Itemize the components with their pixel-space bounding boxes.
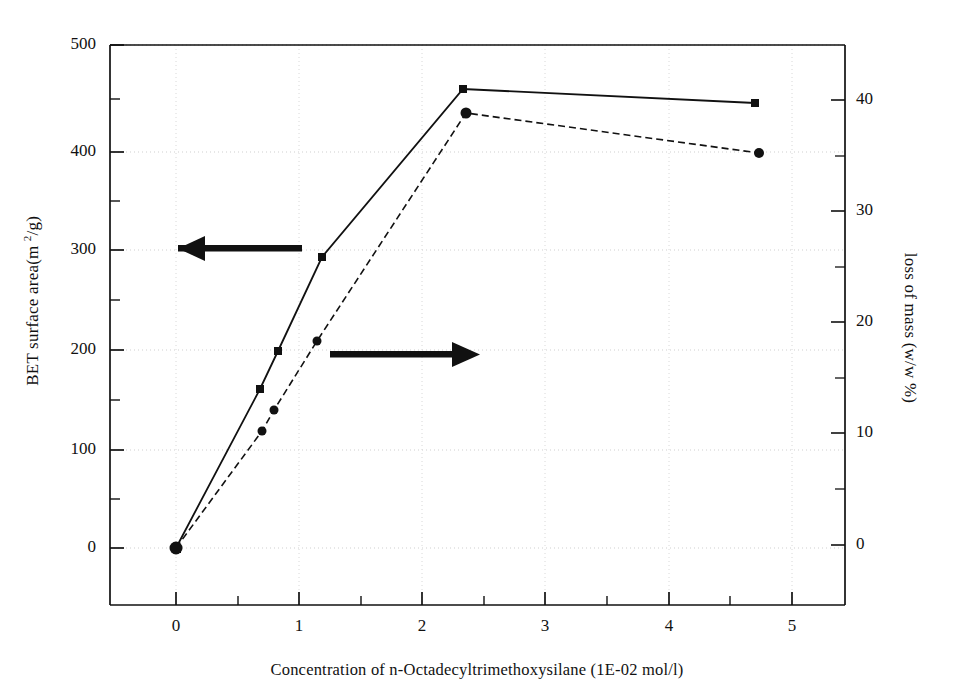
gridlines-vertical [176,45,792,605]
series-loss-line [176,113,759,548]
y-axis-title-left: BET surface area(m 2/g) [21,181,43,421]
left-axis-arrow-icon [178,236,302,261]
ytick-label-left: 100 [36,439,96,459]
data-point-marker [461,108,472,119]
data-point-marker [318,253,326,261]
ytick-label-left: 300 [36,239,96,259]
chart-plot-area [0,0,954,700]
right-axis-arrow-icon [330,342,480,367]
series-bet-surface-area [172,85,759,553]
x-axis-title: Concentration of n-Octadecyltrimethoxysi… [177,660,777,680]
ytick-label-left: 500 [36,34,96,54]
left-minor-ticks [110,99,120,499]
data-point-marker [751,99,759,107]
xtick-label: 1 [279,616,319,636]
y-axis-title-right: loss of mass (w/w %) [900,208,920,448]
data-point-marker [274,347,282,355]
chart-figure: 500 400 300 200 100 0 40 30 20 10 0 0 1 … [0,0,954,700]
xtick-label: 2 [402,616,442,636]
xtick-label: 0 [156,616,196,636]
data-point-marker [313,337,322,346]
left-major-ticks [110,45,124,548]
xtick-label: 5 [772,616,812,636]
ytick-label-right: 0 [856,534,916,554]
right-major-ticks [831,100,845,545]
ytick-label-left: 200 [36,339,96,359]
bottom-minor-ticks [238,596,730,605]
data-point-marker [256,385,264,393]
ytick-label-left: 400 [36,141,96,161]
series-bet-line [176,89,755,548]
data-point-marker [258,427,267,436]
ytick-label-left: 0 [36,537,96,557]
gridlines [110,45,845,548]
series-loss-of-mass [170,108,765,555]
xtick-label: 3 [525,616,565,636]
data-point-marker [270,406,279,415]
xtick-label: 4 [649,616,689,636]
axis-spines [110,45,845,605]
y-axis-title-superscript: 2 [21,235,33,241]
data-point-marker [754,148,764,158]
ytick-label-right: 40 [856,89,916,109]
data-point-marker [170,542,183,555]
data-point-marker [459,85,467,93]
